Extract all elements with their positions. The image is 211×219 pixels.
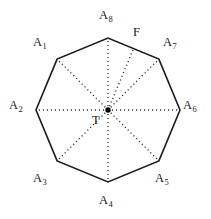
center-label-t: T [92, 114, 100, 127]
vertex-label-a2: A2 [9, 99, 22, 112]
vertex-label-base: A [33, 35, 42, 49]
spoke-T-to-A7 [108, 59, 159, 110]
vertex-label-subscript: 2 [19, 104, 23, 114]
vertex-label-a8: A8 [99, 9, 112, 22]
vertex-label-base: A [33, 171, 42, 185]
vertex-label-subscript: 8 [109, 14, 113, 24]
vertex-label-subscript: 5 [165, 177, 169, 187]
vertex-label-a4: A4 [99, 194, 112, 207]
vertex-label-base: A [99, 8, 108, 22]
vertex-label-base: A [163, 35, 172, 49]
spoke-T-to-F [108, 49, 134, 110]
vertex-label-base: A [99, 193, 108, 207]
spoke-T-to-A1 [57, 59, 108, 110]
vertex-label-a6: A6 [183, 99, 196, 112]
vertex-label-subscript: 4 [109, 199, 113, 209]
vertex-label-base: A [9, 98, 18, 112]
spoke-T-to-A5 [108, 110, 159, 161]
octagon-diagram-svg [0, 0, 211, 219]
center-point-dot [105, 107, 110, 112]
vertex-label-subscript: 7 [173, 41, 177, 51]
octagon-figure: A1A2A3A4A5A6A7A8FT [0, 0, 211, 219]
vertex-label-base: A [183, 98, 192, 112]
edge-point-label-f: F [133, 26, 140, 39]
vertex-label-a7: A7 [163, 36, 176, 49]
vertex-label-a1: A1 [33, 36, 46, 49]
vertex-label-subscript: 1 [43, 41, 47, 51]
vertex-label-subscript: 6 [193, 104, 197, 114]
spoke-T-to-A3 [57, 110, 108, 161]
vertex-label-a5: A5 [155, 172, 168, 185]
vertex-label-base: A [155, 171, 164, 185]
vertex-label-a3: A3 [33, 172, 46, 185]
vertex-label-subscript: 3 [43, 177, 47, 187]
